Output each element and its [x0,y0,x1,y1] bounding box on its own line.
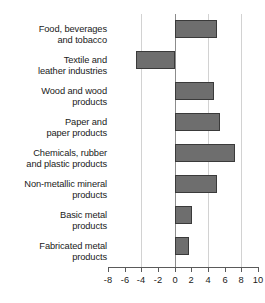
category-label-line: products [2,221,107,232]
x-axis-tick [141,267,142,272]
plot-area [108,14,258,267]
zero-line [175,14,176,267]
gridline [241,14,242,267]
category-label-line: Textile and [2,55,107,66]
x-axis-tick [208,267,209,272]
category-label-line: Basic metal [2,210,107,221]
x-axis-tick [241,267,242,272]
x-axis-tick [125,267,126,272]
category-label-non-metallic-mineral-products: Non-metallic mineral products [2,179,107,201]
category-label-wood-and-wood-products: Wood and wood products [2,86,107,108]
category-label-line: and tobacco [2,35,107,46]
x-axis-tick [158,267,159,272]
bar [175,113,221,131]
category-label-line: products [2,190,107,201]
x-axis-tick [191,267,192,272]
category-label-chemicals-rubber-plastic-products: Chemicals, rubber and plastic products [2,148,107,170]
category-label-line: Wood and wood [2,86,107,97]
bar [175,82,214,100]
bar [175,175,218,193]
category-label-line: products [2,252,107,263]
x-axis-tick [258,267,259,272]
category-label-line: paper products [2,128,107,139]
category-label-line: Non-metallic mineral [2,179,107,190]
category-label-line: and plastic products [2,159,107,170]
category-label-line: Food, beverages [2,24,107,35]
category-axis-labels: Food, beverages and tobacco Textile and … [0,14,107,267]
bar [175,144,235,162]
bar [175,20,218,38]
x-axis-tick-label: 10 [246,275,265,286]
bar-chart: Food, beverages and tobacco Textile and … [0,0,265,303]
bar [175,237,189,255]
category-label-paper-and-paper-products: Paper and paper products [2,117,107,139]
x-axis-tick [175,267,176,272]
category-label-line: Chemicals, rubber [2,148,107,159]
gridline [208,14,209,267]
category-label-basic-metal-products: Basic metal products [2,210,107,232]
category-label-line: leather industries [2,66,107,77]
bar [136,51,175,69]
category-label-line: Paper and [2,117,107,128]
category-label-food-beverages-tobacco: Food, beverages and tobacco [2,24,107,46]
x-axis-tick [108,267,109,272]
x-axis-tick [225,267,226,272]
category-label-textile-leather-industries: Textile and leather industries [2,55,107,77]
category-label-fabricated-metal-products: Fabricated metal products [2,241,107,263]
category-label-line: Fabricated metal [2,241,107,252]
category-label-line: products [2,97,107,108]
x-axis-line [108,267,258,268]
bar [175,206,193,224]
